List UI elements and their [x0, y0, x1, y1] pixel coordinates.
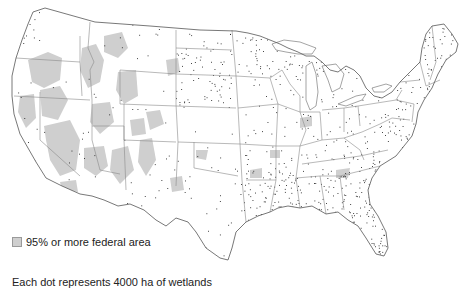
federal-area-swatch-icon [12, 237, 22, 247]
legend-federal-area: 95% or more federal area [12, 236, 151, 248]
land-area [12, 8, 458, 260]
legend-dot-explanation: Each dot represents 4000 ha of wetlands [12, 276, 212, 288]
legend-federal-area-label: 95% or more federal area [26, 236, 151, 248]
lake-ontario [372, 84, 392, 92]
us-wetlands-map [0, 0, 467, 300]
